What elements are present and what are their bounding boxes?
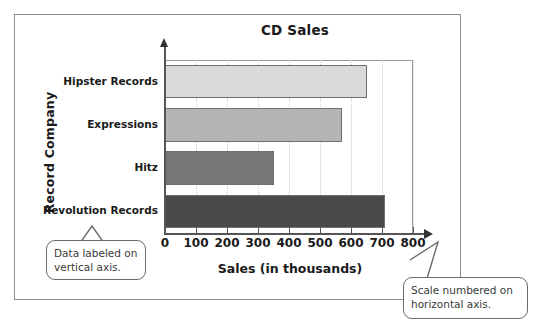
category-label: Revolution Records bbox=[8, 204, 158, 216]
x-tick bbox=[382, 227, 383, 233]
x-tick bbox=[196, 227, 197, 233]
vertical-axis-note: Data labeled on vertical axis. bbox=[46, 240, 146, 280]
category-label: Expressions bbox=[8, 118, 158, 130]
gridline bbox=[413, 60, 414, 233]
category-label: Hitz bbox=[8, 161, 158, 173]
x-tick bbox=[165, 227, 166, 233]
x-tick bbox=[289, 227, 290, 233]
bar-hitz bbox=[165, 151, 274, 185]
bar-hipster-records bbox=[165, 65, 367, 99]
x-tick bbox=[351, 227, 352, 233]
y-axis-arrow-icon bbox=[160, 38, 168, 47]
y-axis-line bbox=[164, 46, 166, 234]
x-axis-title: Sales (in thousands) bbox=[155, 261, 425, 276]
x-tick bbox=[258, 227, 259, 233]
category-label: Hipster Records bbox=[8, 75, 158, 87]
category-labels: Hipster RecordsExpressionsHitzRevolution… bbox=[0, 60, 158, 233]
plot-area bbox=[165, 60, 413, 233]
chart-title: CD Sales bbox=[200, 22, 390, 38]
x-tick bbox=[227, 227, 228, 233]
bar-expressions bbox=[165, 108, 342, 142]
x-tick bbox=[413, 227, 414, 233]
bar-revolution-records bbox=[165, 195, 385, 229]
x-tick bbox=[320, 227, 321, 233]
horizontal-axis-note: Scale numbered on horizontal axis. bbox=[403, 277, 528, 319]
cd-sales-figure: CD Sales Record Company Sales (in thousa… bbox=[0, 0, 534, 333]
x-axis-line bbox=[164, 233, 425, 235]
